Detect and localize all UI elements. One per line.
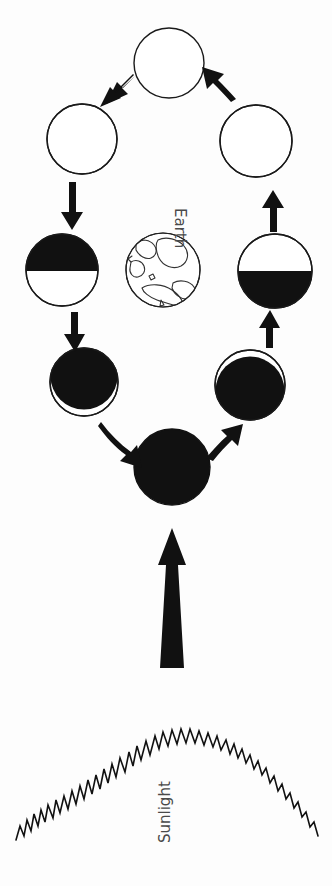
sunlight-label: Sunlight — [156, 781, 174, 843]
moon-phases-diagram: Earth — [0, 0, 332, 886]
diagram-canvas: Earth — [0, 0, 332, 886]
phase-full-moon — [134, 28, 204, 98]
new-moon-disc — [134, 429, 210, 505]
earth-label: Earth — [171, 208, 189, 248]
full-moon-disc — [134, 28, 204, 98]
phase-new-moon — [134, 429, 210, 505]
